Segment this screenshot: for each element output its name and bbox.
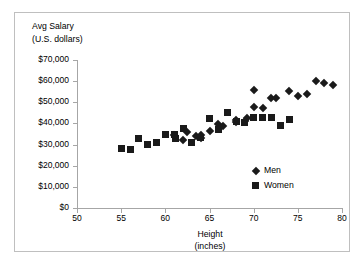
square-marker-icon [172, 135, 179, 142]
square-marker-icon [233, 118, 240, 125]
y-axis-title: Avg Salary (U.S. dollars) [32, 20, 83, 45]
y-axis-tick-label: $70,000 [38, 55, 69, 64]
y-axis-tick-label: $40,000 [38, 118, 69, 127]
legend-item-label: Men [264, 163, 281, 178]
square-marker-icon [180, 125, 187, 132]
square-marker-icon [286, 116, 293, 123]
x-axis-tick-label: 50 [62, 214, 92, 223]
square-marker-icon [197, 134, 204, 141]
square-marker-icon [268, 114, 275, 121]
square-marker-icon [224, 109, 231, 116]
square-marker-icon [259, 114, 266, 121]
square-marker-icon [144, 141, 151, 148]
y-axis-tick-label: $20,000 [38, 161, 69, 170]
square-marker-icon [127, 146, 134, 153]
x-axis-tick-label: 75 [283, 214, 313, 223]
legend-item-label: Women [264, 178, 294, 193]
x-axis-tick-label: 70 [239, 214, 269, 223]
x-axis-tick-label: 55 [106, 214, 136, 223]
x-axis-tick-label: 65 [195, 214, 225, 223]
y-axis-tick-label: $10,000 [38, 182, 69, 191]
square-marker-icon [162, 131, 169, 138]
y-axis-tick-label: $0 [60, 203, 69, 212]
square-marker-icon [215, 126, 222, 133]
square-marker-icon [135, 135, 142, 142]
square-marker-icon [277, 122, 284, 129]
y-axis-title-line2: (U.S. dollars) [32, 33, 83, 46]
x-axis-title-line1: Height [197, 229, 222, 239]
x-axis-title: Height (inches) [160, 228, 260, 252]
y-axis-title-line1: Avg Salary [32, 21, 74, 31]
square-marker-icon [250, 114, 257, 121]
y-axis-tick-label: $30,000 [38, 140, 69, 149]
square-marker-icon [252, 182, 259, 189]
y-axis-tick-label: $60,000 [38, 76, 69, 85]
square-marker-icon [206, 115, 213, 122]
x-axis-title-line2: (inches) [160, 240, 260, 252]
square-marker-icon [118, 145, 125, 152]
square-marker-icon [188, 139, 195, 146]
square-marker-icon [241, 119, 248, 126]
square-marker-icon [153, 139, 160, 146]
x-axis-tick-label: 80 [327, 214, 357, 223]
scatter-chart: Avg Salary (U.S. dollars) $0$10,000$20,0… [0, 0, 364, 265]
x-axis-tick-label: 60 [150, 214, 180, 223]
y-axis-tick-label: $50,000 [38, 97, 69, 106]
